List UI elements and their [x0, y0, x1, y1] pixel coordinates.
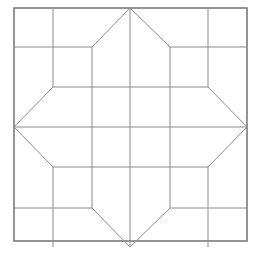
left-arm-top-diagonal-line: [14, 87, 53, 127]
quilt-star-diagram: [0, 0, 255, 260]
right-arm-bottom-diagonal-line: [208, 127, 247, 167]
pattern-lines: [14, 8, 247, 247]
top-arm-right-diagonal-line: [130, 8, 170, 47]
left-arm-bottom-diagonal-line: [14, 127, 53, 167]
right-arm-top-diagonal-line: [208, 87, 247, 127]
top-arm-left-diagonal-line: [92, 8, 130, 47]
